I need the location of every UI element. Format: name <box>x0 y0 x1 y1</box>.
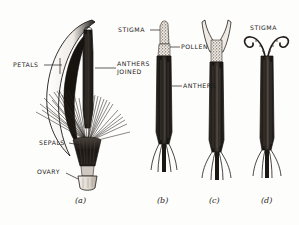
stigma-tip-b <box>160 21 169 44</box>
panel-a-drawing <box>36 20 130 190</box>
panel-b-drawing <box>150 21 182 172</box>
label-pollen: POLLEN <box>181 43 208 51</box>
filament-core-c <box>215 152 219 180</box>
label-ovary: OVARY <box>37 168 60 176</box>
panel-d-drawing <box>245 37 289 178</box>
stigma-curl-right <box>268 37 288 56</box>
filament-core-b <box>162 144 166 172</box>
caption-panel-c: (c) <box>209 196 220 205</box>
filament-core-d <box>265 150 269 178</box>
ovary-body <box>78 176 97 190</box>
botanical-figure: PETALS ANTHERS JOINED SEPALS OVARY STIGM… <box>0 0 299 225</box>
caption-panel-a: (a) <box>75 196 86 205</box>
label-petals: PETALS <box>13 61 39 69</box>
figure-illustration <box>0 0 299 225</box>
anther-column-a <box>83 30 93 128</box>
label-anthers-joined-2: JOINED <box>117 68 142 76</box>
caption-panel-b: (b) <box>157 196 168 205</box>
label-anthers-joined: ANTHERS <box>117 60 150 68</box>
anther-tube-c <box>209 62 224 152</box>
pollen-zone-b <box>158 44 170 56</box>
label-anthers: ANTHERS <box>183 82 216 90</box>
label-sepals: SEPALS <box>39 139 65 147</box>
ovary-neck <box>81 166 94 176</box>
caption-panel-d: (d) <box>261 196 272 205</box>
label-stigma-d: STIGMA <box>250 24 277 32</box>
anther-tube-b <box>156 56 172 144</box>
leader-ovary <box>66 173 78 179</box>
stigma-curl-left <box>245 37 265 56</box>
label-stigma-b: STIGMA <box>118 26 145 34</box>
anther-tube-d <box>260 56 274 150</box>
stigma-pollen-c <box>211 40 222 62</box>
